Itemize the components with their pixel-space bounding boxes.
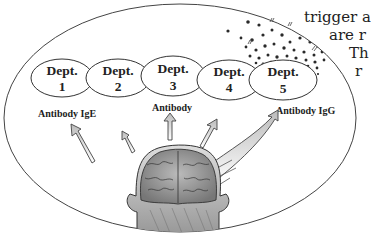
- arrow-to-antibody: [164, 113, 176, 140]
- dept-4-title: Dept.: [213, 64, 244, 79]
- antibody-ige-label: Antibody IgE: [38, 108, 96, 119]
- dept-3-number: 3: [170, 78, 177, 93]
- arrow-short-left: [122, 131, 135, 153]
- brain-shape: [140, 149, 216, 204]
- dept-3-title: Dept.: [157, 61, 188, 76]
- head-illustration: [127, 145, 229, 233]
- dept-4-number: 4: [226, 80, 233, 95]
- arrow-right-diagonal: [200, 119, 217, 148]
- antibody-igg-label: Antibody IgG: [276, 105, 335, 116]
- dept-1-number: 1: [59, 79, 66, 94]
- dept-1-title: Dept.: [46, 63, 77, 78]
- dept-2-number: 2: [115, 79, 122, 94]
- antibody-label: Antibody: [152, 102, 192, 113]
- arrow-to-ige: [71, 124, 95, 163]
- dept-5-title: Dept.: [267, 64, 298, 79]
- dept-2-title: Dept.: [102, 63, 133, 78]
- dept-5-number: 5: [280, 81, 287, 96]
